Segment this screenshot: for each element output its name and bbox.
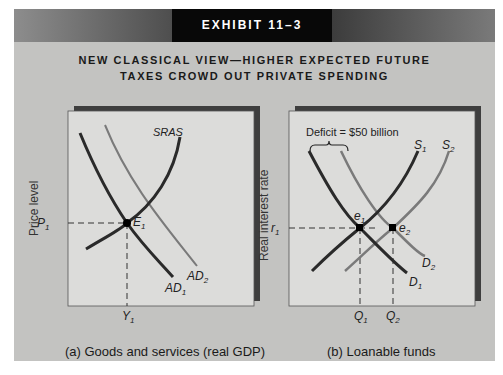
panel-a-ylabel: Price level <box>27 181 41 236</box>
panel-b-chart: Deficit = $50 billion S1 S2 e1 e2 D2 D1 … <box>257 106 481 325</box>
e1-point <box>123 219 131 227</box>
charts-svg: SRAS E1 AD1 AD2 P1 Y1 Price level <box>14 9 495 361</box>
panel-a-plot-area <box>68 111 254 306</box>
panel-b-ylabel: Real interest rate <box>257 169 271 261</box>
e2-point <box>389 224 396 231</box>
deficit-label: Deficit = $50 billion <box>306 126 399 138</box>
y1-tick-label: Y1 <box>122 309 134 325</box>
panel-a-chart: SRAS E1 AD1 AD2 P1 Y1 Price level <box>27 106 260 325</box>
panel-a-caption: (a) Goods and services (real GDP) <box>65 344 265 359</box>
q1-tick-label: Q1 <box>354 309 368 325</box>
panel-b-caption: (b) Loanable funds <box>327 344 435 359</box>
q2-tick-label: Q2 <box>386 309 400 325</box>
e1-point <box>356 224 363 231</box>
exhibit-frame: EXHIBIT 11–3 NEW CLASSICAL VIEW—HIGHER E… <box>14 9 495 361</box>
r1-tick-label: r1 <box>271 221 279 237</box>
sras-label: SRAS <box>153 126 184 138</box>
